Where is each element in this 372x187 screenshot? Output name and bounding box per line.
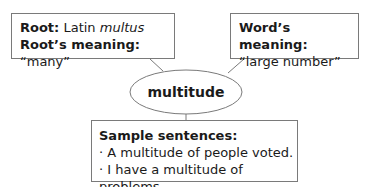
root-word: multus <box>100 20 145 35</box>
word-meaning-label: Word’s meaning: <box>239 19 358 53</box>
word-meaning-value: “large number” <box>239 53 358 70</box>
sentence-item: · A multitude of people voted. <box>99 144 297 161</box>
root-meaning-label: Root’s meaning: <box>20 37 140 52</box>
root-prefix: Latin <box>63 20 95 35</box>
root-meaning-line: Root’s meaning: “many” <box>20 36 174 70</box>
word-meaning-box: Word’s meaning: “large number” <box>230 13 359 59</box>
center-word: multitude <box>130 70 242 114</box>
root-line: Root: Latin multus <box>20 19 174 36</box>
sentence-item: · I have a multitude of problems. <box>99 161 297 187</box>
sample-sentences-box: Sample sentences: · A multitude of peopl… <box>91 120 298 182</box>
root-meaning-value: “many” <box>20 54 70 69</box>
root-label: Root: <box>20 20 59 35</box>
sample-sentences-label: Sample sentences: <box>99 127 297 144</box>
root-box: Root: Latin multus Root’s meaning: “many… <box>11 13 175 59</box>
